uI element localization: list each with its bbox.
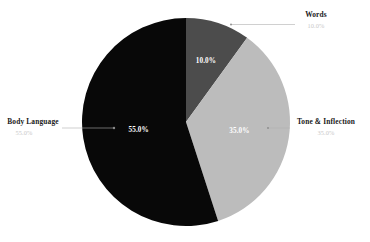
inner-label-body-language: 55.0% bbox=[129, 126, 149, 134]
pie-chart-figure: 10.0% 35.0% 55.0% Words 10.0% Tone & Inf… bbox=[0, 0, 370, 242]
callout-words-sub: 10.0% bbox=[307, 22, 325, 29]
leader-dot-body-language bbox=[113, 127, 115, 129]
callout-tone-inflection[interactable]: Tone & Inflection 35.0% bbox=[297, 117, 355, 136]
leader-dot-words bbox=[230, 24, 232, 26]
pie-slices-group bbox=[82, 18, 290, 226]
inner-label-tone-inflection: 35.0% bbox=[229, 127, 249, 135]
callout-body-language[interactable]: Body Language 55.0% bbox=[7, 117, 59, 136]
callout-tone-inflection-sub: 35.0% bbox=[317, 129, 335, 136]
callout-body-language-sub: 55.0% bbox=[15, 129, 33, 136]
callout-words[interactable]: Words 10.0% bbox=[305, 10, 327, 29]
pie-chart-svg: 10.0% 35.0% 55.0% Words 10.0% Tone & Inf… bbox=[0, 0, 370, 242]
leader-dot-tone-inflection bbox=[267, 127, 269, 129]
callout-words-title: Words bbox=[305, 10, 327, 19]
callout-body-language-title: Body Language bbox=[7, 117, 59, 126]
callout-tone-inflection-title: Tone & Inflection bbox=[297, 117, 355, 126]
inner-label-words: 10.0% bbox=[196, 57, 216, 65]
